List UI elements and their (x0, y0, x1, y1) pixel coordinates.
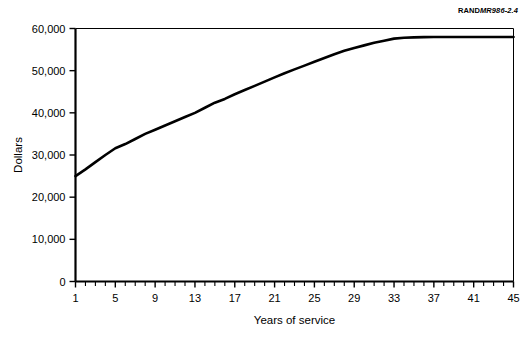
x-axis-tick-labels: 159131721252933374145 (72, 292, 519, 304)
line-chart: 010,00020,00030,00040,00050,00060,000 15… (0, 0, 528, 337)
x-axis-tick-label: 13 (189, 292, 201, 304)
figure-container: RANDMR986-2.4 010,00020,00030,00040,0005… (0, 0, 528, 337)
plot-frame (76, 29, 514, 282)
x-axis-title: Years of service (254, 314, 335, 326)
x-axis-tick-label: 5 (112, 292, 118, 304)
y-axis-tick-label: 10,000 (32, 233, 66, 245)
x-axis-tick-label: 41 (468, 292, 480, 304)
x-axis-tick-label: 1 (72, 292, 78, 304)
x-axis-tick-label: 21 (268, 292, 280, 304)
y-axis-tick-label: 40,000 (32, 107, 66, 119)
data-series-line (76, 37, 514, 176)
x-axis-tick-label: 29 (348, 292, 360, 304)
y-axis-tick-label: 30,000 (32, 149, 66, 161)
x-axis-tick-label: 9 (152, 292, 158, 304)
x-axis-tick-label: 37 (428, 292, 440, 304)
data-line-dollars (76, 37, 514, 176)
y-axis-tick-label: 0 (59, 276, 65, 288)
x-axis-tick-label: 25 (308, 292, 320, 304)
y-axis-tick-label: 60,000 (32, 23, 66, 35)
y-axis-tick-label: 50,000 (32, 65, 66, 77)
x-axis-tick-label: 45 (507, 292, 519, 304)
y-axis-tick-label: 20,000 (32, 191, 66, 203)
x-axis-tick-label: 17 (229, 292, 241, 304)
y-axis-title: Dollars (12, 137, 24, 173)
x-axis-tick-label: 33 (388, 292, 400, 304)
y-axis-tick-labels: 010,00020,00030,00040,00050,00060,000 (32, 23, 66, 288)
